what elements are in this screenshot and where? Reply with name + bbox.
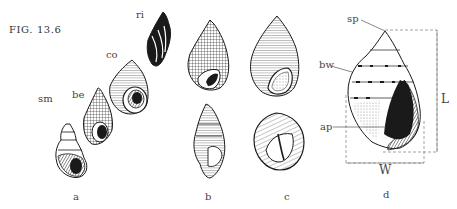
- shell-illustrations: [0, 0, 457, 209]
- shell-co: [110, 60, 148, 114]
- shell-d: [331, 20, 437, 163]
- shell-ri: [147, 12, 170, 66]
- shell-c-upper: [250, 16, 298, 96]
- shell-be: [83, 88, 112, 144]
- shell-c-lower: [254, 113, 304, 170]
- shell-b-upper: [188, 20, 229, 90]
- shell-sm: [56, 124, 87, 178]
- shell-b-lower: [194, 104, 225, 178]
